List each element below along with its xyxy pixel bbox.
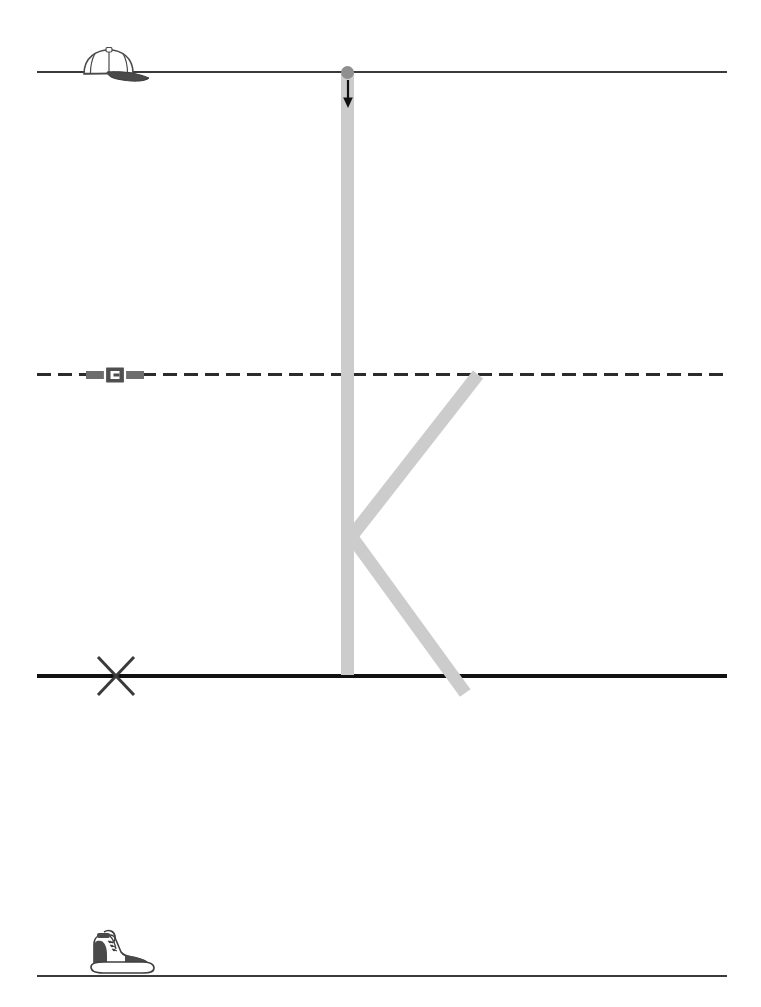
start-dot — [341, 66, 354, 79]
stroke-direction-arrow-icon — [338, 80, 358, 108]
worksheet-page — [0, 0, 761, 1007]
letter-k-tracing — [0, 0, 761, 1007]
belt-buckle-icon — [86, 363, 144, 387]
stroke-upper-diagonal — [342, 371, 483, 546]
x-mark-icon — [93, 653, 139, 699]
stroke-vertical-stem — [341, 72, 354, 675]
hiking-boot-icon — [80, 922, 160, 977]
stroke-lower-diagonal — [342, 527, 470, 696]
cap-icon — [73, 47, 159, 89]
